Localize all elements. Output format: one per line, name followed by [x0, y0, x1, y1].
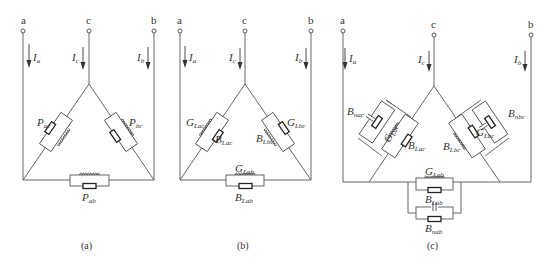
terminal-c — [87, 29, 91, 33]
label-B-nbc: Bnbc — [508, 107, 526, 121]
label-B-Lac: BLac — [215, 133, 233, 147]
caption-c: (c) — [427, 240, 438, 252]
current-arrow-b — [523, 51, 528, 72]
terminal-label-a: a — [21, 14, 26, 26]
resistor-icon — [239, 184, 252, 189]
resistor-icon — [428, 188, 441, 193]
current-arrow-a — [27, 44, 32, 68]
current-label-b: Ib — [294, 51, 303, 65]
current-label-c: Ic — [71, 51, 80, 65]
current-label-b: Ib — [136, 51, 145, 65]
diagram-b: a c b Ia Ic Ib GLac BLac GLbc BLbc GLab … — [177, 14, 314, 252]
terminal-b — [152, 29, 156, 33]
label-G-Lbc: GLbc — [287, 116, 306, 130]
current-label-a: Ia — [348, 52, 357, 66]
label-P-ac: Pac — [36, 116, 51, 130]
terminal-label-b: b — [528, 18, 534, 30]
terminal-b — [529, 33, 533, 37]
current-arrow-b — [146, 47, 151, 70]
label-B-Lac: BLac — [408, 139, 426, 153]
resistor-icon — [428, 217, 441, 222]
diagram-a: a c b Ia Ic Ib Pac Pbc Pab (a) — [21, 14, 157, 252]
current-label-c: Ic — [417, 53, 426, 67]
current-label-a: Ia — [32, 51, 41, 65]
diagram-c: a c b Ia Ic Ib Bnac GLac BLac Bnbc GLbc … — [340, 14, 534, 252]
label-B-Lab: BLab — [425, 193, 443, 207]
caption-b: (b) — [237, 240, 249, 252]
current-arrow-c — [427, 51, 432, 72]
label-P-ab: Pab — [81, 191, 96, 205]
terminal-label-a: a — [340, 14, 345, 26]
terminal-label-c: c — [86, 14, 91, 26]
label-B-Lbc: BLbc — [443, 140, 461, 154]
terminal-a — [178, 29, 182, 33]
label-B-nab: Bnab — [425, 222, 443, 236]
caption-a: (a) — [81, 240, 92, 252]
terminal-label-a: a — [177, 14, 182, 26]
inductor-icon — [80, 173, 100, 175]
current-arrow-a — [183, 46, 188, 68]
current-arrow-c — [238, 48, 243, 70]
branch-ab-a — [70, 173, 109, 189]
current-arrow-b — [304, 48, 309, 70]
label-B-Lab: BLab — [235, 191, 253, 205]
current-label-b: Ib — [513, 53, 522, 67]
label-G-Lab: GLab — [425, 165, 444, 179]
label-G-Lab: GLab — [235, 162, 254, 176]
terminal-label-b: b — [308, 14, 314, 26]
terminal-a — [341, 29, 345, 33]
resistor-icon — [83, 184, 96, 189]
label-B-nac: Bnac — [347, 105, 365, 119]
current-label-c: Ic — [228, 51, 237, 65]
terminal-label-b: b — [151, 14, 157, 26]
label-G-Lac: GLac — [186, 116, 205, 130]
current-label-a: Ia — [188, 51, 197, 65]
terminal-c — [243, 29, 247, 33]
terminal-label-c: c — [242, 14, 247, 26]
terminal-c — [432, 33, 436, 37]
terminal-b — [309, 29, 313, 33]
current-arrow-c — [81, 47, 86, 70]
terminal-a — [21, 29, 25, 33]
delta-load-diagrams: a c b Ia Ic Ib Pac Pbc Pab (a) — [0, 0, 550, 267]
terminal-label-c: c — [431, 18, 436, 30]
label-P-bc: Pbc — [128, 116, 143, 130]
